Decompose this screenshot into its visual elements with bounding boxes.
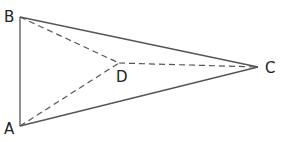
geometry-diagram: B A C D	[0, 0, 281, 142]
label-c: C	[265, 59, 275, 77]
segment-ad-dashed	[20, 63, 119, 126]
label-b: B	[4, 8, 14, 26]
segment-ca	[20, 67, 258, 126]
segment-dc-dashed	[119, 63, 258, 67]
segment-bd-dashed	[20, 17, 119, 63]
segment-bc	[20, 17, 258, 67]
label-a: A	[4, 120, 15, 138]
label-d: D	[116, 68, 128, 86]
